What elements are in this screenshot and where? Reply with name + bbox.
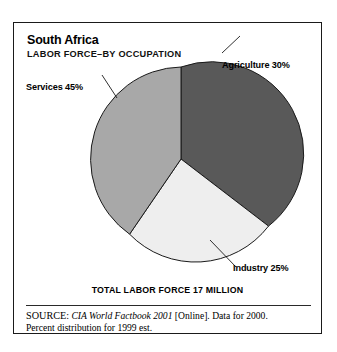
source-line-2: Percent distribution for 1999 est. (26, 322, 152, 333)
pie-label-agriculture: Agriculture 30% (222, 60, 290, 70)
source-work-title: CIA World Factbook 2001 (71, 310, 172, 321)
pie-label-services: Services 45% (26, 82, 83, 92)
leader-line-agriculture (222, 36, 240, 53)
leader-line-services (102, 75, 117, 98)
source-note: SOURCE: CIA World Factbook 2001 [Online]… (26, 310, 314, 334)
total-labor-force-label: TOTAL LABOR FORCE 17 MILLION (14, 285, 321, 295)
source-label: SOURCE: (26, 310, 69, 321)
pie-slices (91, 62, 304, 262)
pie-label-industry: Industry 25% (233, 263, 288, 273)
figure-panel: South Africa LABOR FORCE–BY OCCUPATION A… (13, 22, 322, 334)
source-divider (26, 305, 311, 306)
source-rest: [Online]. Data for 2000. (172, 310, 267, 321)
